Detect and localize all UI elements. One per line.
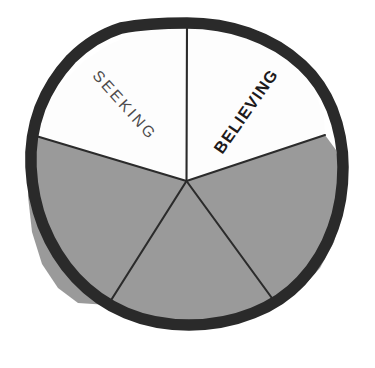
wheel-diagram-svg: SEEKING BELIEVING: [0, 0, 375, 368]
wheel-diagram-canvas: SEEKING BELIEVING: [0, 0, 375, 368]
divider-top: [187, 24, 188, 181]
